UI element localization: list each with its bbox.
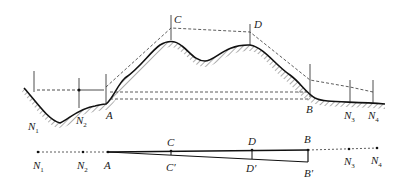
label-N2-bottom: N2 [77, 160, 88, 174]
line-AB [108, 150, 308, 152]
label-C-bottom: C [167, 137, 174, 148]
label-N3-bottom: N3 [344, 156, 355, 170]
line-AB-prime [108, 152, 308, 162]
label-N3-top: N3 [344, 110, 355, 124]
label-B-prime: B′ [304, 168, 313, 179]
label-A-bottom: A [104, 160, 111, 171]
ground-profile-line [24, 41, 385, 123]
label-B-top: B [306, 104, 313, 115]
label-D-prime: D′ [246, 163, 256, 174]
label-C-prime: C′ [166, 162, 176, 173]
label-D-top: D [254, 19, 262, 30]
label-D-bottom: D [248, 136, 256, 147]
label-A-top: A [106, 110, 113, 121]
label-N4-bottom: N4 [371, 155, 382, 169]
label-N1-bottom: N1 [33, 160, 44, 174]
label-N1-top: N1 [28, 121, 39, 135]
label-N4-top: N4 [368, 110, 379, 124]
label-B-bottom: B [304, 134, 311, 145]
label-C-top: C [174, 14, 181, 25]
label-N2-top: N2 [76, 115, 87, 129]
